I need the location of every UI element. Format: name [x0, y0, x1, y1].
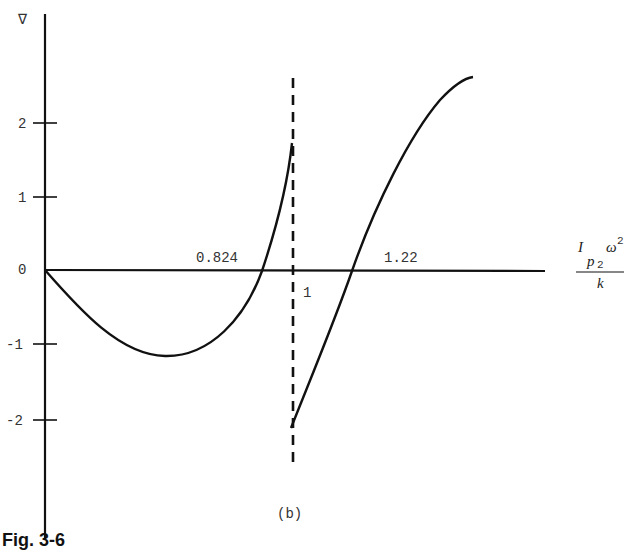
y-tick-1: 1 — [18, 190, 26, 206]
svg-text:ω: ω — [606, 239, 617, 255]
y-tick-0: 0 — [18, 262, 26, 278]
root-label-0824: 0.824 — [196, 250, 238, 266]
svg-text:k: k — [597, 275, 604, 291]
svg-text:2: 2 — [597, 259, 604, 271]
panel-label: (b) — [277, 506, 302, 522]
svg-text:2: 2 — [617, 235, 624, 247]
x-axis — [45, 270, 545, 271]
y-tick-m2: -2 — [6, 413, 23, 429]
svg-text:I: I — [577, 239, 584, 255]
y-tick-2: 2 — [18, 116, 26, 132]
svg-text:p: p — [586, 253, 595, 269]
curve-right-branch — [291, 77, 473, 428]
x-axis-label: I p 2 ω 2 k — [576, 235, 624, 291]
y-tick-m1: -1 — [6, 337, 23, 353]
chart: ∇ 2 1 0 -1 -2 0.824 1 1.22 I p 2 ω 2 k (… — [0, 0, 624, 553]
curve-left-branch — [45, 143, 292, 356]
asymptote-label: 1 — [303, 285, 311, 301]
y-axis-label: ∇ — [17, 12, 28, 29]
root-label-122: 1.22 — [384, 250, 418, 266]
figure-caption: Fig. 3-6 — [2, 530, 65, 551]
